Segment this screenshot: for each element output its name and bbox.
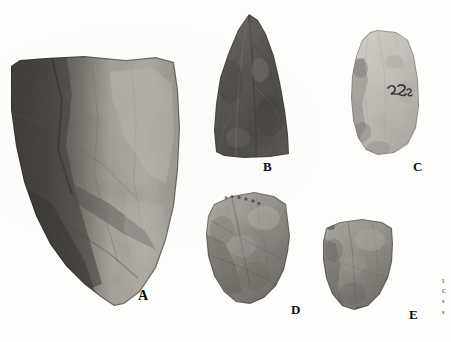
artifact-d-image	[198, 190, 294, 308]
artifact-a-image	[6, 54, 186, 310]
caption-line-1: I	[442, 276, 451, 286]
artifact-d	[198, 190, 294, 308]
artifact-b-image	[208, 12, 292, 160]
artifact-label-c: C	[413, 160, 423, 173]
artifact-b	[208, 12, 292, 160]
caption-line-3: s	[442, 296, 451, 306]
caption-line-4: s	[442, 307, 451, 317]
artifact-label-a: A	[138, 289, 148, 303]
artifact-a	[6, 54, 186, 310]
artifact-photo-plate: A	[0, 0, 451, 342]
caption-line-2: C	[442, 286, 451, 296]
artifact-e	[318, 216, 398, 316]
artifact-label-d: D	[291, 303, 301, 316]
artifact-label-e: E	[409, 308, 418, 321]
artifact-label-b: B	[263, 160, 272, 173]
artifact-c-image	[348, 28, 424, 158]
figure-caption-cutoff: I C s s	[442, 276, 451, 317]
artifact-c	[348, 28, 424, 158]
artifact-e-image	[318, 216, 398, 316]
